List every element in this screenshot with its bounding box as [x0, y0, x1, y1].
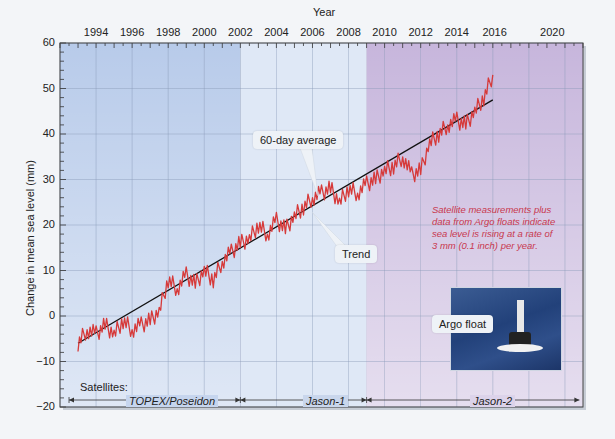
x-axis-title: Year: [313, 6, 335, 18]
right-margin-fragment: [604, 40, 615, 439]
x-tick-label: 2006: [300, 26, 324, 38]
x-tick-label: 2000: [192, 26, 216, 38]
float-collar: [497, 344, 543, 352]
callout-trend: Trend: [335, 245, 377, 263]
x-tick-label: 1996: [120, 26, 144, 38]
x-tick-label: 2002: [228, 26, 252, 38]
note-line: Satellite measurements plus: [432, 204, 592, 216]
chart-figure: Year 19941996199820002002200420062008201…: [0, 0, 615, 439]
x-tick-label: 2016: [482, 26, 506, 38]
satellite-jason-2: Jason-2: [470, 395, 515, 407]
note-line: sea level is rising at a rate of: [432, 228, 592, 240]
y-axis-title: Change in mean sea level (mm): [24, 160, 36, 316]
x-tick-label: 2008: [336, 26, 360, 38]
callout-60-day-average: 60-day average: [253, 131, 343, 149]
x-tick-label: 2004: [264, 26, 288, 38]
y-tick-label: 50: [25, 82, 55, 94]
note-line: data from Argo floats indicate: [432, 216, 592, 228]
x-tick-label: 1994: [84, 26, 108, 38]
x-tick-label: 2020: [540, 26, 564, 38]
satellite-topex: TOPEX/Poseidon: [126, 395, 218, 407]
satellites-label: Satellites:: [80, 381, 128, 393]
x-tick-label: 1998: [156, 26, 180, 38]
y-tick-label: 60: [25, 36, 55, 48]
satellite-jason-1: Jason-1: [303, 395, 348, 407]
y-tick-label: 40: [25, 127, 55, 139]
note-line: 3 mm (0.1 inch) per year.: [432, 240, 592, 252]
rate-note: Satellite measurements plus data from Ar…: [432, 204, 592, 252]
x-tick-label: 2010: [372, 26, 396, 38]
callout-argo-float: Argo float: [432, 315, 493, 333]
y-tick-label: −10: [25, 355, 55, 367]
x-tick-label: 2014: [445, 26, 469, 38]
y-tick-label: −20: [25, 400, 55, 412]
x-tick-label: 2012: [408, 26, 432, 38]
